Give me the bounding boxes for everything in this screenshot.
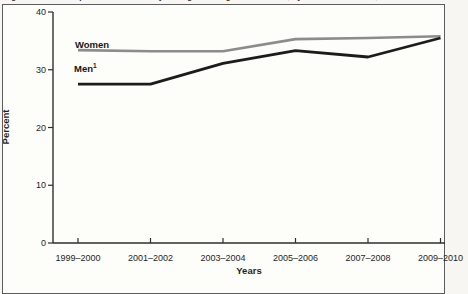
x-tick-label: 2009–2010: [406, 253, 468, 263]
x-tick-label: 2003–2004: [188, 253, 258, 263]
x-tick-label: 2005–2006: [261, 253, 331, 263]
legend-label-men: Men1: [74, 62, 97, 74]
legend-women-text: Women: [75, 39, 109, 50]
legend-label-women: Women: [75, 39, 109, 50]
y-tick-label: 20: [18, 123, 46, 133]
y-axis-title: Percent: [1, 97, 11, 157]
y-tick-label: 30: [18, 65, 46, 75]
women-line: [78, 36, 441, 51]
y-tick-label: 0: [18, 238, 46, 248]
legend-men-text: Men: [74, 63, 93, 74]
figure-caption-text: Figure 4. Trends in prevalence of obesit…: [0, 0, 453, 1]
x-tick-label: 2001–2002: [116, 253, 186, 263]
x-tick-label: 1999–2000: [43, 253, 113, 263]
figure-caption-cutoff: Figure 4. Trends in prevalence of obesit…: [0, 0, 453, 4]
x-axis-title: Years: [53, 266, 445, 276]
y-tick-label: 10: [18, 180, 46, 190]
x-tick-label: 2007–2008: [333, 253, 403, 263]
men-footnote-marker: 1: [93, 62, 97, 69]
y-tick-label: 40: [18, 7, 46, 17]
